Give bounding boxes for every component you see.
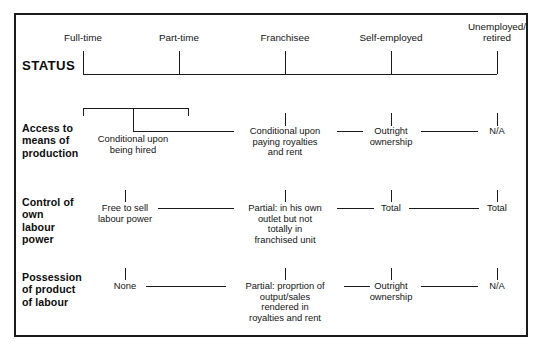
possession-connector-self-employed-to-unemployed (421, 286, 478, 287)
status-tick-full-time (83, 51, 84, 74)
access-bracket-top (83, 108, 189, 109)
access-bracket-right-arm (188, 108, 189, 116)
possession-connector-franchisee-to-self-employed (344, 286, 370, 287)
cell-control-franchisee: Partial: in his own outlet but not total… (248, 203, 321, 245)
possession-tick-full-time (125, 268, 126, 280)
status-axis-baseline (83, 74, 497, 75)
cell-access-franchisee: Conditional upon paying royalties and re… (250, 126, 320, 158)
status-matrix-diagram: STATUS Full-time Part-time Franchisee Se… (0, 0, 545, 353)
control-tick-self-employed (391, 190, 392, 202)
control-tick-full-time (125, 190, 126, 202)
possession-tick-franchisee (285, 268, 286, 280)
status-tick-self-employed (391, 51, 392, 74)
status-tick-unemployed-retired (497, 51, 498, 74)
cell-access-self-employed: Outright ownership (370, 126, 413, 147)
control-connector-self-employed-to-unemployed (409, 208, 479, 209)
row-label-control-of-own-labour-power: Control of own labour power (22, 196, 74, 245)
possession-tick-self-employed (391, 268, 392, 280)
row-label-access-to-means-of-production: Access to means of production (22, 122, 78, 159)
cell-access-unemployed-retired: N/A (489, 126, 505, 137)
cell-control-unemployed-retired: Total (487, 203, 507, 214)
cell-control-full-time: Free to sell labour power (98, 203, 152, 224)
access-connector-franchisee-to-self-employed (337, 131, 363, 132)
control-connector-employee-to-franchisee (158, 208, 234, 209)
cell-possession-self-employed: Outright ownership (370, 281, 413, 302)
column-header-unemployed-retired: Unemployed/ retired (468, 22, 526, 44)
row-label-status: STATUS (22, 58, 75, 73)
access-bracket-stem (133, 108, 134, 131)
access-connector-employee-to-franchisee (133, 131, 234, 132)
control-tick-unemployed-retired (497, 190, 498, 202)
status-tick-part-time (179, 51, 180, 74)
column-header-part-time: Part-time (159, 33, 199, 44)
access-connector-self-employed-to-unemployed (421, 131, 478, 132)
column-header-self-employed: Self-employed (359, 33, 422, 44)
cell-access-employee: Conditional upon being hired (98, 134, 168, 155)
control-connector-franchisee-to-self-employed (337, 208, 374, 209)
access-bracket-left-arm (83, 108, 84, 116)
cell-possession-full-time: None (114, 281, 136, 292)
cell-possession-franchisee: Partial: proprtion of output/sales rende… (245, 281, 324, 323)
column-header-full-time: Full-time (64, 33, 102, 44)
column-header-franchisee: Franchisee (261, 33, 310, 44)
status-tick-franchisee (285, 51, 286, 74)
control-tick-franchisee (285, 190, 286, 202)
possession-tick-unemployed-retired (497, 268, 498, 280)
possession-connector-none-to-franchisee (146, 286, 226, 287)
cell-possession-unemployed-retired: N/A (489, 281, 505, 292)
cell-control-self-employed: Total (381, 203, 401, 214)
row-label-possession-of-product-of-labour: Possession of product of labour (22, 271, 82, 308)
